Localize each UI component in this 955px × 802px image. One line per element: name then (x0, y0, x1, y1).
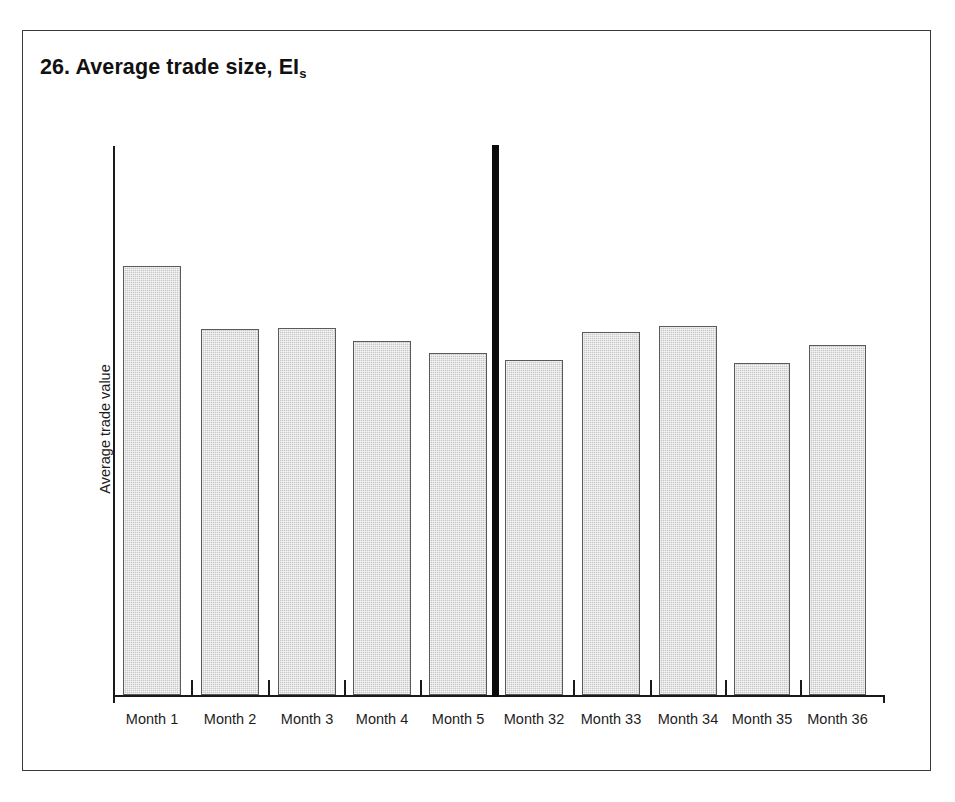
bar (582, 332, 640, 695)
bar (734, 363, 790, 695)
y-axis-label: Average trade value (97, 329, 113, 529)
bar-chart: Average trade value Month 1Month 2Month … (23, 31, 932, 772)
bar (505, 360, 563, 695)
x-axis-tick (650, 680, 652, 695)
x-axis-tick (344, 680, 346, 695)
x-axis-right-cap (883, 695, 885, 703)
bar (278, 328, 336, 695)
bar (201, 329, 259, 695)
x-axis-tick (191, 680, 193, 695)
x-axis-tick (420, 680, 422, 695)
x-axis-left-cap (113, 695, 115, 703)
x-axis-line (113, 695, 885, 697)
x-axis-tick (800, 680, 802, 695)
x-axis-tick (268, 680, 270, 695)
bar (353, 341, 411, 695)
bar (123, 266, 181, 695)
x-axis-tick (573, 680, 575, 695)
bar (809, 345, 866, 695)
y-axis-line (113, 146, 115, 695)
bar (659, 326, 717, 695)
figure-panel: 26. Average trade size, EIs Average trad… (22, 30, 931, 771)
x-axis-tick (725, 680, 727, 695)
group-separator-line (492, 145, 499, 697)
x-axis-tick-label: Month 36 (788, 711, 888, 727)
bar (429, 353, 487, 695)
